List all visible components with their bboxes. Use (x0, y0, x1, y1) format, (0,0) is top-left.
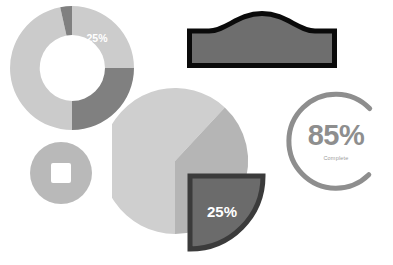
pie-chart[interactable]: 25% (112, 86, 267, 261)
figure-canvas: 25% 25% (0, 0, 393, 265)
pie-chart-svg: 25% (112, 86, 272, 265)
progress-ring-svg (283, 88, 389, 194)
progress-ring[interactable]: 85% Complete (283, 88, 389, 194)
stop-square-icon (51, 163, 71, 183)
arch-outline-path[interactable] (190, 14, 335, 66)
donut-segment-label: 25% (86, 32, 108, 44)
arch-shape[interactable] (186, 10, 338, 68)
arch-shape-svg (186, 10, 338, 68)
pie-slice-exploded-label: 25% (207, 203, 237, 220)
pie-slice-exploded-group[interactable]: 25% (190, 176, 263, 249)
stop-button[interactable] (30, 142, 92, 204)
donut-segment-light-left[interactable] (10, 7, 72, 130)
progress-ring-arc[interactable] (289, 94, 370, 188)
stop-button-svg (30, 142, 92, 204)
